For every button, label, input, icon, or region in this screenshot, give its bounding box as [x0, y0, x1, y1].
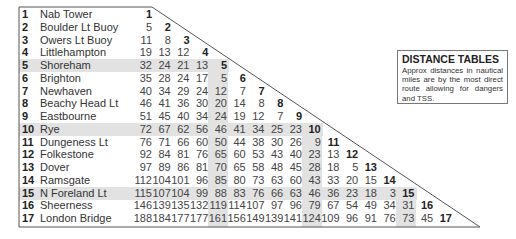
info-title: DISTANCE TABLES	[402, 53, 503, 66]
info-text: Approx distances in nautical miles are b…	[402, 66, 503, 103]
table-frame	[0, 0, 516, 239]
info-box: DISTANCE TABLES Approx distances in naut…	[397, 50, 508, 104]
